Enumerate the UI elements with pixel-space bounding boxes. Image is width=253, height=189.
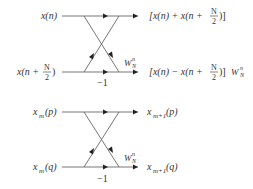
twiddle-label: W n N <box>124 151 137 164</box>
butterfly-diagram-2: x m (p) x m (q) −1 W n N x m+1 (p) x m+1… <box>32 106 178 184</box>
frac-num: N <box>44 63 50 72</box>
arrow-icon <box>133 14 138 19</box>
label-base: x <box>32 161 38 172</box>
arrow-icon <box>89 53 94 60</box>
twiddle-sup: n <box>132 151 135 157</box>
label-sub: m <box>39 112 44 120</box>
arrow-icon <box>89 148 94 155</box>
close-bracket: )] <box>219 66 226 78</box>
butterfly-diagrams: x(n) x(n + N 2 ) −1 W n N [x(n) + x(n + … <box>0 0 253 189</box>
label-base: x <box>146 161 152 172</box>
arrow-icon <box>103 165 108 170</box>
arrow-icon <box>103 70 108 75</box>
arrow-icon <box>103 14 108 19</box>
label-arg: (q) <box>166 161 178 173</box>
output-bottom-text: [x(n) − x(n + <box>149 66 203 78</box>
twiddle-sup: n <box>240 65 243 71</box>
input-top-label: x m (p) <box>32 106 57 120</box>
frac-den: 2 <box>212 73 216 82</box>
butterfly-diagram-1: x(n) x(n + N 2 ) −1 W n N [x(n) + x(n + … <box>16 7 245 88</box>
input-bottom-label: x(n + N 2 ) <box>16 63 55 82</box>
close-bracket: )] <box>219 10 226 22</box>
label-arg: (p) <box>166 106 178 118</box>
twiddle-sup: n <box>132 56 135 62</box>
label-base: x <box>32 106 38 117</box>
label-sub: m+1 <box>153 167 166 175</box>
close-paren: ) <box>52 66 55 78</box>
twiddle-sub: N <box>131 158 137 164</box>
label-sub: m+1 <box>153 112 166 120</box>
gain-label: −1 <box>97 173 108 184</box>
frac-num: N <box>211 63 217 72</box>
gain-label: −1 <box>97 77 108 88</box>
twiddle-base: W <box>231 67 240 77</box>
label-base: x <box>146 106 152 117</box>
twiddle-label: W n N <box>124 56 137 69</box>
input-top-label: x(n) <box>40 10 58 22</box>
output-bottom-label: [x(n) − x(n + N 2 )] W n N <box>149 63 245 82</box>
twiddle-sub: N <box>131 63 137 69</box>
arrow-icon <box>133 70 138 75</box>
label-arg: (p) <box>45 106 57 118</box>
arrow-icon <box>103 110 108 115</box>
arrow-icon <box>133 110 138 115</box>
frac-den: 2 <box>45 73 49 82</box>
output-top-label: [x(n) + x(n + N 2 )] <box>149 7 226 26</box>
output-bottom-label: x m+1 (q) <box>146 161 178 175</box>
arrow-icon <box>108 52 113 59</box>
arrow-icon <box>108 147 113 154</box>
input-bottom-text: x(n + <box>16 66 39 78</box>
frac-num: N <box>211 7 217 16</box>
twiddle-sub: N <box>239 72 245 78</box>
arrow-icon <box>133 165 138 170</box>
output-top-text: [x(n) + x(n + <box>149 10 203 22</box>
input-bottom-label: x m (q) <box>32 161 57 175</box>
label-arg: (q) <box>45 161 57 173</box>
frac-den: 2 <box>212 17 216 26</box>
output-top-label: x m+1 (p) <box>146 106 178 120</box>
label-sub: m <box>39 167 44 175</box>
